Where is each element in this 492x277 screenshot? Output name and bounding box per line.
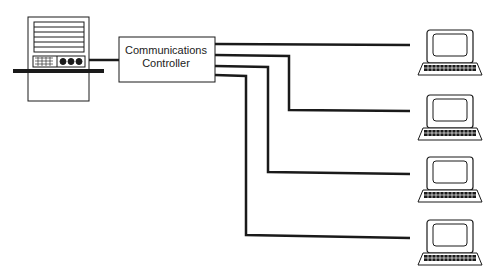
controller-label-line1: Communications (117, 44, 215, 57)
network-diagram (0, 0, 492, 277)
connection-lines (215, 44, 410, 238)
terminal-icon (418, 220, 482, 265)
terminal-icon (418, 95, 482, 140)
controller-label: Communications Controller (117, 44, 215, 70)
terminal-icon (418, 30, 482, 75)
terminal-icon (418, 157, 482, 202)
controller-label-line2: Controller (117, 57, 215, 70)
